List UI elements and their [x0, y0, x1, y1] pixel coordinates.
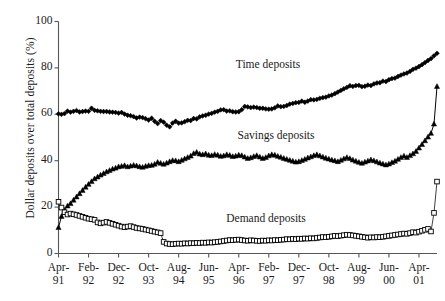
series-demand-deposits	[56, 179, 439, 246]
x-axis-ticks	[59, 254, 419, 258]
plot-area	[0, 0, 445, 301]
y-axis-ticks	[55, 22, 59, 254]
axis-lines	[59, 22, 438, 254]
chart-figure: Dollar deposits over total deposits (%) …	[0, 0, 445, 301]
series-time-deposits	[56, 51, 439, 129]
